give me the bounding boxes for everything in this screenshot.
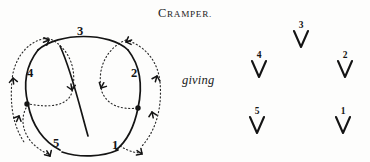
result-mark-4: 4 xyxy=(246,50,272,84)
result-mark-2: 2 xyxy=(332,50,358,84)
ring-label-1: 1 xyxy=(112,138,118,152)
ring-label-5: 5 xyxy=(53,136,59,150)
arrowhead-bottom-left-down xyxy=(43,149,53,158)
dotted-loop-right-inner-upper xyxy=(100,40,126,92)
solid-arc-bottom xyxy=(62,150,118,156)
down-chevron-arrow-icon xyxy=(244,114,270,140)
solid-path-group xyxy=(26,37,141,156)
ring-label-3: 3 xyxy=(77,24,83,38)
dotted-loop-left-inner xyxy=(29,38,74,106)
ring-label-2: 2 xyxy=(131,66,137,80)
down-chevron-arrow-icon xyxy=(330,114,356,140)
arrowhead-right-lower-up xyxy=(148,111,157,119)
arrowhead-top-right xyxy=(125,36,133,46)
dotted-arc-lower-left xyxy=(11,80,24,142)
arrowhead-right-inner-down xyxy=(97,81,107,90)
result-mark-3: 3 xyxy=(288,20,314,54)
arrowhead-group xyxy=(9,36,161,158)
down-chevron-arrow-icon xyxy=(288,28,314,54)
result-mark-1: 1 xyxy=(330,106,356,140)
dotted-loop-right-inner-lower xyxy=(102,92,138,108)
result-mark-5: 5 xyxy=(244,106,270,140)
solid-arc-top xyxy=(38,37,128,51)
dotted-arc-bottom-left xyxy=(23,108,48,154)
path-dot-left xyxy=(24,101,29,106)
ring-label-4: 4 xyxy=(27,66,34,80)
arrowhead-bottom-right-down xyxy=(135,147,144,157)
solid-arc-right-lower xyxy=(116,108,138,150)
path-dot-right xyxy=(135,105,140,110)
down-chevron-arrow-icon xyxy=(332,58,358,84)
resulting-order-marks: 3 4 2 5 1 xyxy=(232,18,370,162)
solid-arc-centre-left xyxy=(60,46,88,136)
arrowhead-left-outer-up xyxy=(9,78,18,85)
connector-word: giving xyxy=(182,73,214,88)
ring-diagram: 3 4 2 5 1 xyxy=(2,16,174,162)
plate-page: CRAMPER. xyxy=(0,0,370,162)
down-chevron-arrow-icon xyxy=(246,58,272,84)
